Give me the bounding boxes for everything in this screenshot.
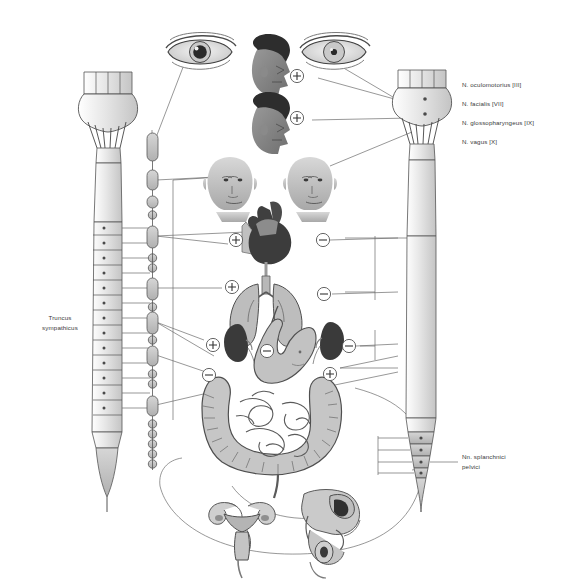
superior-cervical-ganglion — [147, 133, 158, 161]
marker-intestine-sympathetic — [202, 368, 215, 381]
cranial-nucleus-2 — [423, 112, 427, 116]
marker-heart-sympathetic — [229, 233, 242, 246]
marker-lung-sympathetic — [225, 280, 238, 293]
marker-stomach-parasympathetic — [260, 344, 273, 357]
thoracolumbar-cord-right — [406, 236, 436, 418]
label-nn-splanchnici-pelvici: Nn. splanchnici pelvici — [462, 452, 557, 471]
head-profile-lower — [252, 92, 290, 154]
marker-kidney-parasympathetic — [342, 339, 355, 352]
cervical-cord — [94, 163, 122, 222]
label-n-glossopharyngeus: N. glossopharyngeus [IX] — [462, 118, 534, 128]
head-profile-upper — [252, 34, 290, 96]
cranial-nucleus-1 — [423, 97, 427, 101]
label-n-oculomotorius: N. oculomotorius [III] — [462, 80, 534, 90]
marker-stomach-sympathetic — [206, 338, 219, 351]
marker-eye-sympathetic — [290, 69, 303, 82]
marker-lacrimal-sympathetic — [290, 111, 303, 124]
label-n-facialis: N. facialis [VII] — [462, 99, 534, 109]
middle-cervical-ganglion — [147, 170, 158, 190]
marker-lung-parasympathetic — [317, 287, 330, 300]
label-truncus-sympathicus: Truncus sympathicus — [24, 313, 96, 332]
label-n-vagus: N. vagus [X] — [462, 137, 534, 147]
cranial-nerve-label-group: N. oculomotorius [III] N. facialis [VII]… — [462, 80, 534, 156]
cervical-cord-right — [407, 160, 436, 236]
marker-intestine-parasympathetic — [323, 367, 336, 380]
thoracic-ganglion — [147, 226, 158, 248]
marker-heart-parasympathetic — [316, 233, 329, 246]
thoracolumbar-cord — [92, 222, 122, 432]
